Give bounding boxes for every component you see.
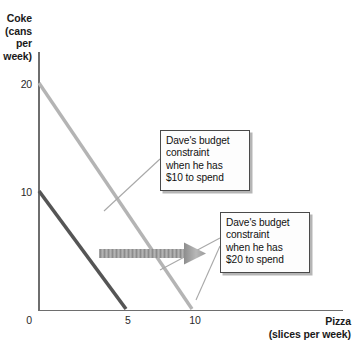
callout-budget-20-line-2: constraint (226, 229, 304, 241)
callout-budget-20: Dave's budget constraint when he has $20… (220, 212, 310, 273)
callout-budget-10-line-4: $10 to spend (166, 172, 244, 184)
callout-budget-10-line-2: constraint (166, 147, 244, 159)
leader-line-callout-10 (104, 159, 160, 211)
callout-budget-10-line-3: when he has (166, 160, 244, 172)
callout-budget-10-line-1: Dave's budget (166, 135, 244, 147)
callout-budget-20-line-4: $20 to spend (226, 254, 304, 266)
callout-budget-10: Dave's budget constraint when he has $10… (160, 130, 250, 191)
shift-arrow-icon (99, 243, 206, 265)
callout-budget-20-line-3: when he has (226, 242, 304, 254)
callout-budget-20-line-1: Dave's budget (226, 217, 304, 229)
budget-line-20-dollars (39, 83, 192, 309)
budget-constraint-chart: Coke (cans per week) Pizza (slices per w… (0, 0, 355, 353)
